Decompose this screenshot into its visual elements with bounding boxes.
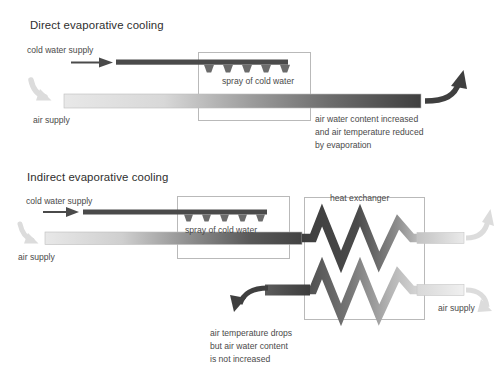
direct-cold-water-supply-label: cold water supply [27,45,93,56]
heat-exchanger-upper-coil [302,215,424,262]
indirect-lower-inlet-pipe [265,285,310,296]
indirect-spray-nozzles [184,215,265,222]
direct-cold-water-arrow [71,58,113,68]
indirect-cold-water-supply-label: cold water supply [26,196,92,207]
direct-cold-water-pipe [116,60,288,65]
indirect-lower-outlet-pipe [417,285,464,296]
indirect-caption-line-1: air temperature drops [210,327,292,340]
direct-caption-line-3: by evaporation [315,139,371,152]
diagram-graphics [0,0,495,380]
indirect-cooled-air-arrow [230,288,268,312]
indirect-air-duct [45,232,302,245]
indirect-upper-outlet-pipe [417,233,464,244]
indirect-caption-line-2: but air water content [210,340,288,353]
heat-exchanger-label: heat exchanger [330,193,389,204]
indirect-air-supply-out-label: air supply [438,303,475,314]
direct-air-duct [64,94,421,108]
indirect-air-supply-in-label: air supply [18,252,55,263]
direct-spray-box-label: spray of cold water [222,76,294,87]
direct-caption-line-2: and air temperature reduced [315,126,423,139]
direct-panel-title: Direct evaporative cooling [30,18,164,33]
evaporative-cooling-diagram: Direct evaporative cooling cold water su… [0,0,495,380]
direct-spray-nozzles [204,65,290,73]
indirect-air-supply-in-arrow [20,224,39,244]
direct-caption-line-1: air water content increased [315,113,418,126]
indirect-caption-line-3: is not increased [210,353,270,366]
indirect-upper-exit-arrow [466,209,494,238]
indirect-panel-title: Indirect evaporative cooling [27,170,168,185]
direct-air-supply-in-arrow [31,80,52,101]
indirect-cold-water-pipe [83,210,267,215]
direct-air-exit-arrow [425,70,467,101]
indirect-spray-box-label: spray of cold water [185,225,257,236]
indirect-cold-water-arrow [43,207,79,217]
direct-air-supply-in-label: air supply [33,115,70,126]
heat-exchanger-lower-coil [302,268,424,315]
